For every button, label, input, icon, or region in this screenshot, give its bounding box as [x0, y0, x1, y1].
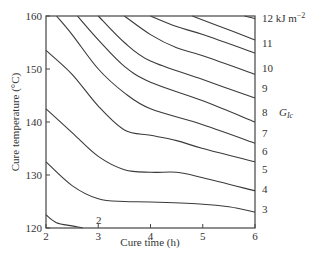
- contour-label-11: 11: [262, 37, 273, 49]
- contour-label-10: 10: [262, 62, 274, 74]
- contour-8: [98, 16, 255, 98]
- contour-11: [192, 16, 255, 40]
- contour-label-9: 9: [262, 82, 268, 94]
- y-tick-label: 120: [26, 222, 43, 234]
- contour-label-7: 7: [262, 127, 268, 139]
- x-axis-title: Cure time (h): [120, 236, 180, 249]
- contour-lines: [46, 16, 255, 228]
- x-tick-label: 5: [200, 230, 206, 242]
- contour-2: [46, 215, 83, 228]
- contour-10: [151, 16, 256, 53]
- y-axis-title: Cure temperature (°C): [9, 72, 22, 171]
- y-tick-label: 140: [26, 116, 43, 128]
- contour-label-3: 3: [262, 203, 268, 215]
- contour-label-8: 8: [262, 106, 268, 118]
- contour-4: [46, 109, 255, 191]
- gic-variable: G: [279, 106, 287, 118]
- contour-5: [46, 50, 255, 161]
- y-tick-label: 130: [26, 169, 43, 181]
- x-tick-label: 2: [43, 230, 49, 242]
- contour-3: [46, 162, 255, 212]
- contour-label-12: 12 kJ m−2: [262, 11, 305, 24]
- x-tick-label: 6: [252, 230, 258, 242]
- low-level-label: 2: [96, 214, 102, 226]
- y-tick-label: 160: [26, 10, 43, 22]
- contour-label-6: 6: [262, 145, 268, 157]
- gic-symbol: GIc: [279, 106, 294, 120]
- gic-subscript: Ic: [286, 111, 294, 120]
- contour-label-5: 5: [262, 163, 268, 175]
- contour-9: [124, 16, 255, 74]
- plot-frame: [46, 16, 255, 228]
- contour-chart: 23456 120130140150160 12 kJ m−2111098765…: [0, 0, 309, 262]
- contour-label-4: 4: [262, 183, 268, 195]
- y-tick-label: 150: [26, 63, 43, 75]
- x-tick-label: 3: [96, 230, 102, 242]
- contour-6: [57, 16, 256, 143]
- contour-7: [77, 16, 255, 122]
